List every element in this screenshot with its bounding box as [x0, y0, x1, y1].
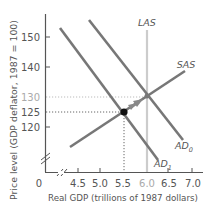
y-tick-140: 140 [21, 62, 40, 73]
sas-label: SAS [177, 59, 196, 70]
x-tick-7-0: 7.0 [185, 178, 201, 189]
ad0-curve [89, 20, 183, 140]
y-tick-150: 150 [21, 32, 40, 43]
y-tick-125: 125 [21, 107, 40, 118]
aggregate-supply-demand-chart: 150 140 130 125 120 0 4.5 5.0 5.5 6.0 6.… [0, 0, 214, 212]
new-equilibrium-point [145, 94, 150, 99]
x-tick-5-5: 5.5 [115, 178, 131, 189]
sas-curve [70, 71, 185, 147]
x-tick-6-0: 6.0 [139, 178, 155, 189]
x-tick-5-0: 5.0 [92, 178, 108, 189]
x-axis-title: Real GDP (trillions of 1987 dollars) [48, 193, 198, 203]
las-label: LAS [138, 17, 156, 28]
x-origin-label: 0 [36, 178, 42, 189]
y-tick-130: 130 [21, 92, 40, 103]
y-axis-title: Price level (GDP deflator, 1987 = 100) [9, 20, 19, 200]
arrow-icon [128, 99, 143, 110]
ad0-label: AD0 [174, 140, 193, 154]
x-tick-6-5: 6.5 [161, 178, 177, 189]
initial-equilibrium-point [120, 108, 127, 115]
y-tick-120: 120 [21, 122, 40, 133]
x-tick-4-5: 4.5 [70, 178, 86, 189]
ad1-label: AD1 [153, 158, 172, 172]
ad1-curve [60, 28, 158, 160]
